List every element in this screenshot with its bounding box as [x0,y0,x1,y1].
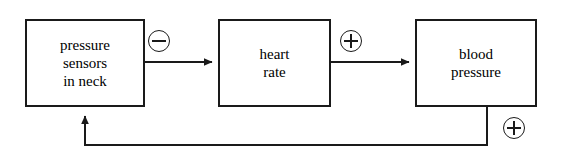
plus-sign-icon [340,30,362,52]
block-pressure-sensors-label: pressure sensors in neck [56,36,114,90]
block-pressure-sensors: pressure sensors in neck [25,19,145,107]
edge-blood-pressure-to-pressure-sensors [85,107,487,145]
block-heart-rate-label: heart rate [256,45,294,81]
minus-sign-icon [148,30,170,52]
plus-sign-feedback-icon [503,117,525,139]
block-heart-rate: heart rate [218,19,331,107]
block-diagram: pressure sensors in neck heart rate bloo… [0,0,562,162]
block-blood-pressure-label: blood pressure [447,45,505,81]
block-blood-pressure: blood pressure [415,19,537,107]
